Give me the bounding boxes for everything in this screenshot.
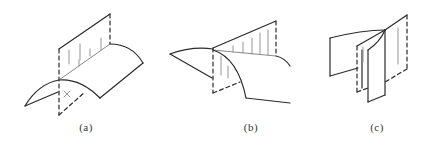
figure-a-cross-marker <box>64 91 70 97</box>
diagram-svg <box>0 0 421 147</box>
figure-b-curved-surface <box>170 48 290 103</box>
figure-c-cutting-plane <box>357 15 407 92</box>
figure-b-label: (b) <box>244 122 258 133</box>
figure-a <box>25 14 143 115</box>
figure-a-cutting-plane <box>59 14 110 115</box>
figure-c <box>330 15 407 102</box>
figure-b-cutting-plane <box>213 21 276 93</box>
figure-c-label: (c) <box>370 122 384 133</box>
diagram-canvas: (a) (b) (c) <box>0 0 421 147</box>
figure-a-curved-surface <box>25 44 143 106</box>
figure-a-label: (a) <box>79 122 93 133</box>
figure-b <box>170 21 290 103</box>
